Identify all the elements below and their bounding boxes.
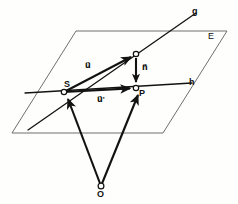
point-label-o: O — [97, 190, 104, 199]
vector-label-n: n⃗ — [142, 64, 148, 72]
line-label-g: g — [192, 7, 198, 16]
vector-o-to-s-arrow — [68, 99, 101, 186]
point-marker-p — [133, 85, 138, 90]
vector-label-u-prime: u⃗' — [97, 96, 105, 104]
geometry-figure: E g h S P O u⃗ u⃗' n⃗ — [0, 0, 238, 204]
vector-o-to-p-arrow — [101, 95, 138, 186]
plane-label-e: E — [208, 32, 214, 41]
point-marker-q — [133, 51, 138, 56]
point-label-s: S — [64, 80, 70, 89]
point-marker-s — [61, 89, 66, 94]
vector-label-u: u⃗ — [85, 62, 91, 70]
figure-canvas — [0, 0, 238, 204]
plane-outline — [12, 31, 227, 133]
line-label-h: h — [189, 78, 195, 87]
line-h — [25, 83, 192, 93]
point-label-p: P — [139, 89, 145, 98]
